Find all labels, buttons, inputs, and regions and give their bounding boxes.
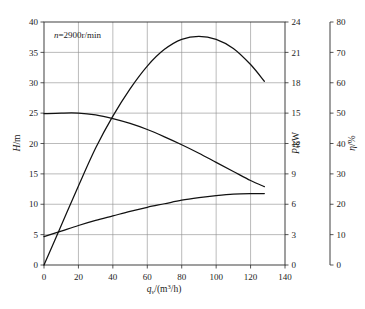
- y-axis-power-title: P/kW: [291, 132, 301, 155]
- y-power-tick-label: 0: [292, 260, 297, 270]
- y-efficiency-tick-label: 20: [337, 199, 347, 209]
- y-head-tick-label: 5: [34, 230, 39, 240]
- y-power-tick-label: 15: [292, 108, 302, 118]
- y-power-tick-label: 18: [292, 78, 302, 88]
- y-head-tick-label: 10: [29, 199, 39, 209]
- y-head-tick-label: 25: [29, 108, 39, 118]
- x-axis-title: qv/(m3/h): [147, 283, 182, 296]
- y-head-tick-label: 30: [29, 78, 39, 88]
- x-tick-label: 140: [278, 272, 292, 282]
- data-curves-group: [44, 36, 264, 265]
- curve-power: [44, 194, 264, 237]
- x-tick-label: 0: [42, 272, 47, 282]
- y-power-tick-label: 9: [292, 169, 297, 179]
- y-head-tick-label: 0: [34, 260, 39, 270]
- x-tick-label: 20: [74, 272, 84, 282]
- annotation-value: 2900r/min: [64, 30, 102, 40]
- curve-efficiency: [44, 36, 264, 265]
- y-efficiency-tick-label: 30: [337, 169, 347, 179]
- y-head-tick-label: 40: [29, 17, 39, 27]
- y-efficiency-tick-label: 40: [337, 139, 347, 149]
- pump-performance-chart: 020406080100120140 0510152025303540 0369…: [0, 0, 365, 309]
- y-axis-head: 0510152025303540: [29, 17, 44, 270]
- y-head-tick-label: 20: [29, 139, 39, 149]
- speed-annotation: n=2900r/min: [54, 30, 102, 40]
- y-efficiency-tick-label: 50: [337, 108, 347, 118]
- x-tick-label: 40: [108, 272, 118, 282]
- gridlines-group: [44, 22, 285, 265]
- y-power-tick-label: 24: [292, 17, 302, 27]
- x-tick-label: 80: [177, 272, 187, 282]
- y-axis-efficiency: 01020304050607080: [330, 17, 346, 270]
- y-axis-efficiency-title: η/%: [347, 135, 357, 150]
- curve-head: [44, 113, 264, 187]
- y-efficiency-tick-label: 0: [337, 260, 342, 270]
- x-axis: 020406080100120140: [42, 265, 293, 282]
- y-efficiency-tick-label: 70: [337, 48, 347, 58]
- y-efficiency-tick-label: 80: [337, 17, 347, 27]
- y-efficiency-tick-label: 60: [337, 78, 347, 88]
- x-tick-label: 100: [209, 272, 223, 282]
- chart-canvas: 020406080100120140 0510152025303540 0369…: [0, 0, 365, 309]
- y-efficiency-tick-label: 10: [337, 230, 347, 240]
- y-axis-head-title: H/m: [12, 134, 22, 153]
- y-power-tick-label: 21: [292, 48, 301, 58]
- x-tick-label: 60: [143, 272, 153, 282]
- y-head-tick-label: 35: [29, 48, 39, 58]
- y-power-tick-label: 6: [292, 199, 297, 209]
- x-tick-label: 120: [244, 272, 258, 282]
- y-power-tick-label: 3: [292, 230, 297, 240]
- y-head-tick-label: 15: [29, 169, 39, 179]
